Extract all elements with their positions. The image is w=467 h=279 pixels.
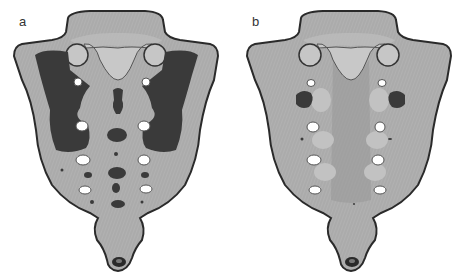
panel-b: b (233, 0, 466, 279)
sacrum-render-b (233, 0, 466, 279)
foramen (307, 155, 321, 165)
dark-region-right (388, 91, 405, 108)
foramen (138, 155, 150, 165)
foramen (375, 122, 385, 132)
foramen (79, 186, 91, 194)
foramen (140, 185, 152, 193)
foramen (76, 155, 90, 165)
foramen (307, 80, 315, 87)
foramen (138, 121, 150, 131)
foramen (74, 78, 82, 86)
foramen (378, 80, 386, 87)
foramen (372, 155, 384, 165)
foramen (307, 122, 319, 132)
foramen (142, 78, 150, 86)
foramen (374, 186, 386, 194)
sacrum-render-a (0, 0, 233, 279)
panel-a: a (0, 0, 233, 279)
foramen (76, 121, 88, 131)
foramen (309, 186, 321, 194)
dark-region-left (296, 91, 313, 108)
